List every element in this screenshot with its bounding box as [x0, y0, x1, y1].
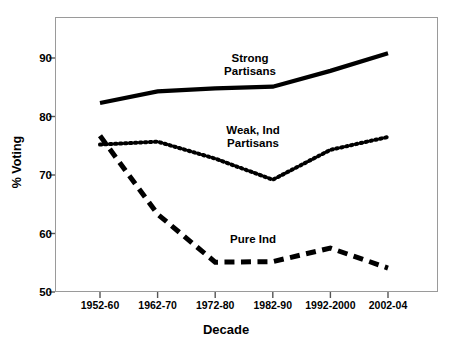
series-label-weak-ind-partisans: Weak, Ind Partisans [198, 124, 308, 150]
x-axis-title: Decade [0, 322, 452, 337]
y-axis-tick-label: 80 [22, 111, 52, 123]
x-axis-tick-label: 2002-04 [343, 299, 433, 311]
y-axis-tick-label: 60 [22, 228, 52, 240]
series-label-pure-ind: Pure Ind [198, 233, 308, 246]
y-axis-title: % Voting [10, 117, 24, 207]
chart-figure: 5060708090 % Voting 1952-601962-701972-8… [0, 0, 452, 360]
y-axis-tick-label: 70 [22, 169, 52, 181]
series-line-pure-ind [100, 136, 388, 268]
y-axis-tick-label: 50 [22, 286, 52, 298]
y-axis-tick-label: 90 [22, 52, 52, 64]
x-axis-ticks [100, 292, 388, 298]
series-label-strong-partisans: Strong Partisans [195, 52, 305, 78]
